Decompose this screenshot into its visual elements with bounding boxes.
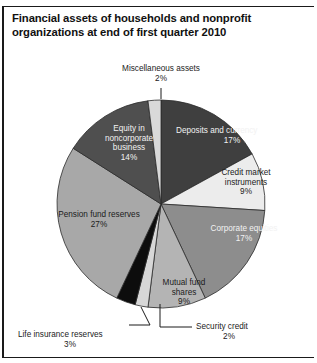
pie-chart: Deposits and currency 17% Credit market … (0, 0, 317, 363)
slice-value-credit-market: 9% (209, 187, 283, 197)
slice-label-pension-fund-reserves: Pension fund reserves 27% (45, 210, 153, 229)
callout-label-miscellaneous-assets: Miscellaneous assets 2% (95, 64, 227, 83)
slice-label-credit-market-instruments: Credit market instruments 9% (209, 168, 283, 197)
slice-label-corporate-equities: Corporate equities 17% (198, 224, 290, 243)
slice-label-mutual-fund-line2: shares (153, 288, 215, 298)
slice-label-mutual-fund-line1: Mutual fund (163, 278, 206, 287)
slice-value-pension-fund: 27% (45, 220, 153, 230)
slice-label-deposits-and-currency: Deposits and currency 17% (176, 126, 294, 145)
slice-value-corporate-equities: 17% (198, 234, 290, 244)
slice-label-credit-market-line2: instruments (209, 178, 283, 188)
callout-label-life-insurance-text: Life insurance reserves (18, 330, 103, 339)
slice-label-equity-noncorp-line3: business (91, 143, 167, 153)
callout-value-misc: 2% (95, 74, 227, 84)
slice-value-mutual-fund: 9% (153, 297, 215, 307)
slice-value-deposits: 17% (176, 136, 288, 146)
callout-label-misc-text: Miscellaneous assets (122, 64, 200, 73)
slice-label-equity-noncorp-line2: noncorporate (91, 134, 167, 144)
slice-label-credit-market-line1: Credit market (221, 168, 270, 177)
leader-line-life-insurance (129, 307, 150, 325)
callout-label-security-credit-text: Security credit (196, 322, 248, 331)
callout-label-security-credit: Security credit 2% (196, 322, 274, 341)
slice-label-deposits-text: Deposits and currency (176, 126, 257, 135)
slice-value-equity-noncorp: 14% (91, 153, 167, 163)
slice-label-mutual-fund-shares: Mutual fund shares 9% (153, 278, 215, 307)
slice-label-equity-noncorp-line1: Equity in (113, 124, 144, 133)
slice-label-corporate-equities-text: Corporate equities (211, 224, 278, 233)
slice-label-equity-noncorporate-business: Equity in noncorporate business 14% (91, 124, 167, 162)
callout-value-life-insurance: 3% (18, 340, 122, 350)
callout-label-life-insurance-reserves: Life insurance reserves 3% (18, 330, 126, 349)
callout-value-security-credit: 2% (196, 332, 262, 342)
figure-panel: Financial assets of households and nonpr… (0, 0, 317, 363)
slice-label-pension-fund-text: Pension fund reserves (58, 210, 139, 219)
